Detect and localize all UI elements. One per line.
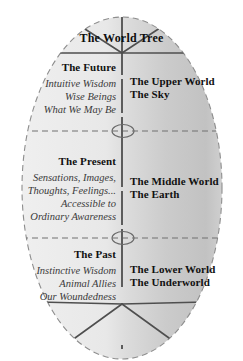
world-tree-diagram: The World Tree The Future Intuitive Wisd… bbox=[0, 0, 243, 361]
section-lower-line-1: Instinctive Wisdom bbox=[0, 264, 116, 277]
section-upper-right: The Upper World The Sky bbox=[130, 75, 243, 101]
section-middle-line-4: Ordinary Awareness bbox=[0, 210, 116, 223]
section-middle-line-3: Accessible to bbox=[0, 197, 116, 210]
section-upper-line-3: What We May Be bbox=[0, 103, 116, 116]
section-lower-left: The Past Instinctive Wisdom Animal Allie… bbox=[0, 248, 116, 303]
section-lower-line-2: Animal Allies bbox=[0, 277, 116, 290]
section-lower-heading: The Past bbox=[0, 248, 116, 261]
section-lower-right-line-2: The Underworld bbox=[130, 276, 243, 289]
section-lower-right-line-1: The Lower World bbox=[130, 263, 243, 276]
section-upper-right-line-1: The Upper World bbox=[130, 75, 243, 88]
diagram-labels: The World Tree The Future Intuitive Wisd… bbox=[0, 0, 243, 361]
section-upper-line-2: Wise Beings bbox=[0, 90, 116, 103]
section-middle-heading: The Present bbox=[0, 155, 116, 168]
section-upper-left: The Future Intuitive Wisdom Wise Beings … bbox=[0, 61, 116, 116]
section-middle-line-1: Sensations, Images, bbox=[0, 171, 116, 184]
section-middle-right: The Middle World The Earth bbox=[130, 175, 243, 201]
section-middle-right-line-2: The Earth bbox=[130, 188, 243, 201]
section-lower-right: The Lower World The Underworld bbox=[130, 263, 243, 289]
section-lower-line-3: Our Woundedness bbox=[0, 290, 116, 303]
section-middle-left: The Present Sensations, Images, Thoughts… bbox=[0, 155, 116, 223]
section-middle-right-line-1: The Middle World bbox=[130, 175, 243, 188]
diagram-title: The World Tree bbox=[0, 32, 243, 44]
section-middle-line-2: Thoughts, Feelings... bbox=[0, 184, 116, 197]
section-upper-right-line-2: The Sky bbox=[130, 88, 243, 101]
section-upper-heading: The Future bbox=[0, 61, 116, 74]
section-upper-line-1: Intuitive Wisdom bbox=[0, 77, 116, 90]
